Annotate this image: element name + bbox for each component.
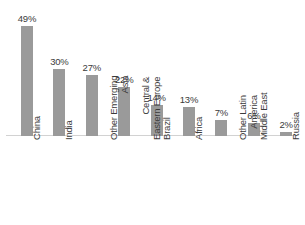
x-axis-category-line: Africa [193,117,204,140]
x-axis-category-label: Africa [183,140,195,224]
x-axis-category-line: Middle East [258,93,269,140]
bar[interactable] [215,120,227,136]
bar-group[interactable]: 13% [183,1,195,136]
bar-value-label: 7% [215,107,228,118]
x-axis-category-text: Central &Eastern Europe [141,77,162,140]
bar-chart: 49%30%27%22%14%13%7%6%2% ChinaIndiaOther… [0,0,305,225]
x-axis-category-text: Russia [291,112,302,140]
x-axis-category-line: Asia [119,76,130,140]
bar-value-label: 13% [180,94,198,105]
x-axis-category-text: China [32,116,43,140]
x-axis-labels: ChinaIndiaOther EmergingAsiaCentral &Eas… [0,136,305,225]
x-axis-category-text: Africa [194,117,205,140]
bar-value-label: 30% [50,56,68,67]
x-axis-category-text: Middle East [259,93,270,140]
x-axis-category-label: Brazil [151,140,163,224]
bar[interactable] [86,75,98,136]
x-axis-category-line: India [63,120,74,140]
x-axis-category-label: Other EmergingAsia [86,140,98,224]
x-axis-category-text: Other EmergingAsia [109,76,130,140]
bar-value-label: 27% [83,62,101,73]
bar-value-label: 49% [18,13,36,24]
bar-group[interactable]: 7% [215,1,227,136]
bar-group[interactable]: 27% [86,1,98,136]
x-axis-category-line: Other Emerging [108,76,119,140]
x-axis-category-label: Central &Eastern Europe [118,140,130,224]
x-axis-category-line: Central & [140,77,151,115]
x-axis-category-label: Middle East [248,140,260,224]
x-axis-category-label: Russia [280,140,292,224]
x-axis-category-line: Russia [290,112,301,140]
x-axis-category-text: Brazil [162,117,173,140]
x-axis-category-text: India [64,120,75,140]
x-axis-category-label: Other LatinAmerica [215,140,227,224]
bar-group[interactable]: 30% [53,1,65,136]
x-axis-category-label: China [21,140,33,224]
x-axis-category-line: China [31,116,42,140]
x-axis-category-label: India [53,140,65,224]
x-axis-category-line: Brazil [161,117,172,140]
x-axis-category-text: Other LatinAmerica [238,95,259,140]
x-axis-category-line: Other Latin [237,95,248,140]
